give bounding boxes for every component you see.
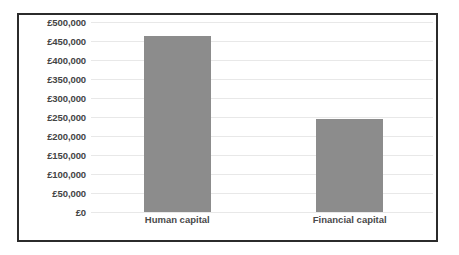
y-tick-label: £450,000 — [47, 36, 86, 47]
y-tick-label: £0 — [76, 207, 86, 218]
bar — [144, 36, 211, 212]
y-tick-label: £500,000 — [47, 17, 86, 28]
bar-chart-figure: £500,000£450,000£400,000£350,000£300,000… — [17, 13, 438, 242]
y-axis: £500,000£450,000£400,000£350,000£300,000… — [19, 15, 91, 240]
y-tick-label: £350,000 — [47, 74, 86, 85]
y-tick-label: £100,000 — [47, 169, 86, 180]
y-tick-label: £50,000 — [52, 188, 86, 199]
bars-group — [91, 15, 436, 240]
chart-inner: £500,000£450,000£400,000£350,000£300,000… — [19, 15, 436, 240]
plot-area — [91, 15, 436, 240]
y-tick-label: £200,000 — [47, 131, 86, 142]
bar — [316, 119, 383, 212]
x-tick-label: Human capital — [145, 214, 210, 225]
y-tick-label: £300,000 — [47, 93, 86, 104]
x-tick-label: Financial capital — [313, 214, 387, 225]
x-axis: Human capitalFinancial capital — [91, 212, 436, 240]
y-tick-label: £400,000 — [47, 55, 86, 66]
y-tick-label: £250,000 — [47, 112, 86, 123]
y-tick-label: £150,000 — [47, 150, 86, 161]
